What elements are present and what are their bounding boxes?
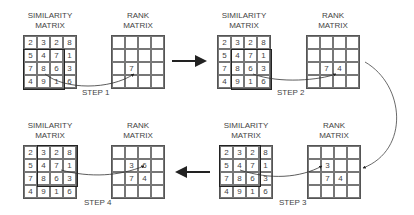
step-3-mapping-arrow [240,166,322,176]
arrows-layer [0,0,414,215]
step-4-mapping-arrow [61,166,144,175]
step-2-to-3-curved-arrow [363,62,397,168]
step-2-mapping-arrow [253,74,336,80]
step-1-mapping-arrow [45,74,134,86]
